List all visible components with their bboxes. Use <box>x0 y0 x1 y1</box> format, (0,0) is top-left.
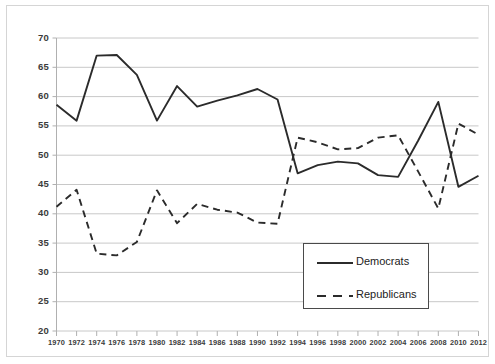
y-axis-tick-label: 70 <box>23 32 49 43</box>
y-axis-tick-label: 30 <box>23 266 49 277</box>
y-axis-tick-label: 40 <box>23 207 49 218</box>
y-axis-tick-label: 25 <box>23 295 49 306</box>
y-axis-tick-label: 50 <box>23 149 49 160</box>
y-axis-tick-label: 55 <box>23 119 49 130</box>
axes <box>53 38 57 331</box>
series-line-democrats <box>57 55 479 187</box>
y-axis-tick-label: 65 <box>23 61 49 72</box>
chart-container: 2025303540455055606570 19701972197419761… <box>0 0 495 364</box>
legend-swatch-solid-icon <box>315 255 355 267</box>
legend-item-republicans: Republicans <box>304 277 428 310</box>
legend-label-democrats: Democrats <box>356 255 409 267</box>
y-axis-tick-label: 35 <box>23 237 49 248</box>
legend-label-republicans: Republicans <box>356 288 417 300</box>
series-line-republicans <box>57 124 479 256</box>
y-axis-tick-label: 45 <box>23 178 49 189</box>
x-axis-tick-label: 2012 <box>464 338 494 347</box>
chart-legend: Democrats Republicans <box>303 243 429 309</box>
x-axis-ticks <box>57 331 479 336</box>
y-axis-tick-label: 60 <box>23 90 49 101</box>
legend-item-democrats: Democrats <box>304 244 428 277</box>
legend-swatch-dashed-icon <box>315 288 355 300</box>
y-axis-tick-label: 20 <box>23 325 49 336</box>
